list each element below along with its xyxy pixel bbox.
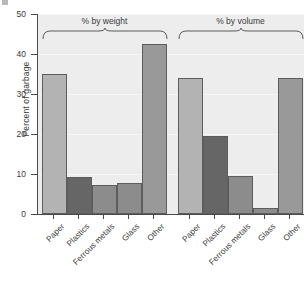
x-tick-volume-other xyxy=(289,215,290,219)
y-tick-label-10: 10 xyxy=(0,170,26,179)
x-tick-volume-ferrous-metals xyxy=(239,215,240,219)
gridline-40 xyxy=(38,54,304,55)
bar-volume-plastics xyxy=(203,136,228,214)
chart-figure: Percent of garbage 50 40 30 20 10 0 xyxy=(0,0,308,290)
x-tick-weight-ferrous-metals xyxy=(103,215,104,219)
plot-inner: % by weight % by volume xyxy=(38,14,304,214)
bar-weight-ferrous-metals xyxy=(92,185,117,214)
y-axis-title: Percent of garbage xyxy=(21,24,31,174)
group-caption-weight: % by weight xyxy=(42,16,167,26)
x-tick-weight-other xyxy=(153,215,154,219)
bar-volume-ferrous-metals xyxy=(228,176,253,214)
bar-weight-plastics xyxy=(67,177,92,214)
y-tick-label-30: 30 xyxy=(0,90,26,99)
group-caption-volume: % by volume xyxy=(178,16,303,26)
bar-volume-other xyxy=(278,78,303,214)
y-tick-label-0: 0 xyxy=(0,210,26,219)
brace-weight xyxy=(42,28,168,40)
gridline-30 xyxy=(38,94,304,95)
y-tick-label-40: 40 xyxy=(0,50,26,59)
corner-artifact xyxy=(2,0,8,5)
gridline-10 xyxy=(38,174,304,175)
bar-volume-paper xyxy=(178,78,203,214)
bar-weight-other xyxy=(142,44,167,214)
bar-weight-glass xyxy=(117,183,142,214)
brace-volume xyxy=(178,28,304,40)
x-tick-weight-paper xyxy=(53,215,54,219)
x-tick-volume-plastics xyxy=(214,215,215,219)
y-tick-label-20: 20 xyxy=(0,130,26,139)
x-tick-weight-glass xyxy=(128,215,129,219)
bar-weight-paper xyxy=(42,74,67,214)
x-tick-volume-glass xyxy=(264,215,265,219)
x-tick-volume-paper xyxy=(189,215,190,219)
y-tick-label-50: 50 xyxy=(0,10,26,19)
gridline-20 xyxy=(38,134,304,135)
x-tick-weight-plastics xyxy=(78,215,79,219)
plot-area: % by weight % by volume xyxy=(37,14,304,214)
gridline-50 xyxy=(38,14,304,15)
